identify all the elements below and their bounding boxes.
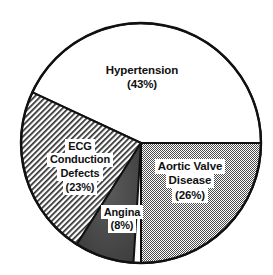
slice-label-ecg-percent: (23%)	[63, 181, 98, 195]
slice-label-ecg-line2: Conduction	[47, 153, 113, 167]
pie-chart: Hypertension (43%) ECG Conduction Defect…	[0, 0, 273, 275]
slice-label-aortic-valve-disease: Aortic Valve Disease (26%)	[146, 159, 234, 203]
slice-label-aortic-percent: (26%)	[172, 188, 208, 203]
slice-label-ecg-line3: Defects	[57, 167, 102, 181]
slice-label-hypertension-percent: (43%)	[125, 78, 159, 92]
slice-label-angina-percent: (8%)	[108, 219, 137, 233]
pie-chart-canvas	[0, 0, 273, 275]
slice-label-ecg-line1: ECG	[65, 139, 95, 153]
slice-label-aortic-line1: Aortic Valve	[155, 159, 226, 174]
slice-label-ecg-conduction-defects: ECG Conduction Defects (23%)	[41, 139, 119, 195]
slice-label-angina-name: Angina	[101, 205, 144, 219]
slice-label-aortic-line2: Disease	[166, 174, 215, 189]
slice-label-hypertension-name: Hypertension	[104, 64, 180, 78]
slice-label-hypertension: Hypertension (43%)	[84, 64, 200, 91]
slice-label-angina: Angina (8%)	[97, 205, 147, 233]
